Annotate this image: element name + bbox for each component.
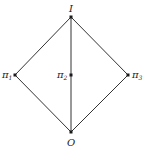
edge-pi1-bottom [15,75,71,132]
label-pi1: π1 [1,69,12,81]
node-top [70,16,73,19]
node-pi1 [14,74,17,77]
label-bottom: O [67,137,75,148]
label-pi3: π3 [131,69,143,81]
hasse-diagram: I π1 π2 π3 O [0,0,155,155]
node-bottom [70,131,73,134]
label-top: I [68,3,74,14]
edge-top-pi1 [15,17,71,75]
node-pi3 [127,74,130,77]
edge-pi3-bottom [71,75,128,132]
label-pi2: π2 [56,69,68,81]
node-pi2 [70,74,73,77]
edge-top-pi3 [71,17,128,75]
